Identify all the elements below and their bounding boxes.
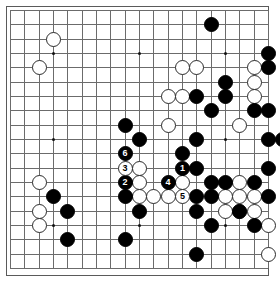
stone-black[interactable] — [118, 189, 133, 204]
hoshi-point — [52, 52, 55, 55]
grid-line-horizontal — [10, 125, 268, 126]
stone-white[interactable] — [132, 161, 147, 176]
stone-black[interactable] — [218, 89, 233, 104]
stone-white[interactable] — [32, 175, 47, 190]
stone-black[interactable] — [204, 218, 219, 233]
stone-white[interactable] — [161, 189, 176, 204]
grid-line-horizontal — [10, 110, 268, 111]
stone-white[interactable] — [32, 204, 47, 219]
stone-black[interactable] — [189, 161, 204, 176]
stone-black[interactable] — [247, 103, 262, 118]
stone-black[interactable] — [60, 204, 75, 219]
stone-black[interactable] — [218, 175, 233, 190]
stone-white[interactable] — [32, 60, 47, 75]
screenshot-root: 123456 — [0, 0, 280, 287]
stone-black[interactable] — [261, 60, 276, 75]
stone-white[interactable] — [175, 175, 190, 190]
hoshi-point — [224, 224, 227, 227]
grid-line-horizontal — [10, 24, 268, 25]
move-number-label: 3 — [119, 162, 132, 175]
stone-white[interactable] — [247, 189, 262, 204]
stone-black[interactable] — [261, 46, 276, 61]
stone-black[interactable] — [132, 204, 147, 219]
stone-white[interactable] — [218, 204, 233, 219]
stone-white[interactable] — [32, 218, 47, 233]
numbered-stone-black[interactable]: 1 — [175, 161, 190, 176]
stone-white[interactable] — [247, 204, 262, 219]
numbered-stone-white[interactable]: 5 — [175, 189, 190, 204]
numbered-stone-black[interactable]: 4 — [161, 175, 176, 190]
stone-white[interactable] — [161, 118, 176, 133]
move-number-label: 4 — [162, 176, 175, 189]
grid-line-horizontal — [10, 67, 268, 68]
stone-white[interactable] — [161, 89, 176, 104]
stone-black[interactable] — [204, 103, 219, 118]
hoshi-point — [52, 138, 55, 141]
stone-black[interactable] — [132, 132, 147, 147]
stone-black[interactable] — [118, 232, 133, 247]
stone-white[interactable] — [46, 32, 61, 47]
stone-black[interactable] — [247, 175, 262, 190]
stone-white[interactable] — [132, 175, 147, 190]
stone-black[interactable] — [261, 132, 276, 147]
stone-black[interactable] — [261, 103, 276, 118]
stone-white[interactable] — [261, 218, 276, 233]
hoshi-point — [224, 52, 227, 55]
move-number-label: 1 — [176, 162, 189, 175]
stone-white[interactable] — [232, 118, 247, 133]
hoshi-point — [224, 138, 227, 141]
stone-black[interactable] — [204, 175, 219, 190]
numbered-stone-black[interactable]: 6 — [118, 146, 133, 161]
stone-white[interactable] — [247, 60, 262, 75]
stone-black[interactable] — [218, 75, 233, 90]
move-number-label: 5 — [176, 190, 189, 203]
stone-white[interactable] — [175, 89, 190, 104]
grid-line-horizontal — [10, 268, 268, 269]
stone-black[interactable] — [204, 17, 219, 32]
move-number-label: 2 — [119, 176, 132, 189]
go-board[interactable]: 123456 — [6, 6, 270, 277]
stone-black[interactable] — [232, 204, 247, 219]
hoshi-point — [52, 224, 55, 227]
stone-black[interactable] — [204, 189, 219, 204]
hoshi-point — [138, 224, 141, 227]
hoshi-point — [138, 52, 141, 55]
numbered-stone-white[interactable]: 3 — [118, 161, 133, 176]
numbered-stone-black[interactable]: 2 — [118, 175, 133, 190]
grid-line-horizontal — [10, 254, 268, 255]
stone-white[interactable] — [261, 247, 276, 262]
stone-black[interactable] — [189, 247, 204, 262]
grid-line-horizontal — [10, 153, 268, 154]
grid-line-horizontal — [10, 239, 268, 240]
stone-black[interactable] — [189, 204, 204, 219]
stone-black[interactable] — [118, 118, 133, 133]
stone-black[interactable] — [261, 189, 276, 204]
stone-black[interactable] — [261, 161, 276, 176]
stone-white[interactable] — [247, 75, 262, 90]
stone-black[interactable] — [247, 218, 262, 233]
grid-line-horizontal — [10, 10, 268, 11]
move-number-label: 6 — [119, 147, 132, 160]
stone-white[interactable] — [247, 89, 262, 104]
stone-black[interactable] — [275, 132, 280, 147]
